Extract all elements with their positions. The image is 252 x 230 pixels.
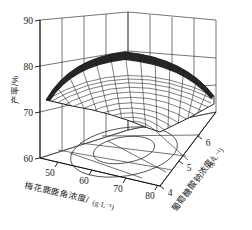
z-axis-title: 产率/% [10, 76, 20, 104]
floor-gridline-y1 [70, 153, 142, 178]
floor-gridline-y3 [150, 126, 188, 160]
contour-ring-inner [91, 132, 156, 167]
x-tick-label-70: 70 [113, 184, 123, 194]
x-axis-unit: (g·L⁻¹) [92, 198, 116, 212]
floor-gridline-y2 [108, 141, 166, 172]
z-tick-mark-60 [35, 158, 40, 159]
response-surface-mesh [46, 52, 214, 133]
z-tick-label-90: 90 [24, 16, 34, 26]
x-tick-mark-50 [55, 162, 58, 167]
y-tick-mark-4 [160, 186, 164, 189]
z-tick-mark-90 [35, 20, 40, 21]
x-tick-mark-70 [123, 178, 126, 183]
x-tick-mark-60 [89, 170, 92, 175]
x-tick-mark-80 [155, 185, 158, 190]
z-tick-mark-70 [35, 112, 40, 113]
z-tick-label-60: 60 [24, 154, 34, 164]
z-tick-mark-80 [35, 66, 40, 67]
z-axis-ticks [35, 20, 40, 159]
z-tick-label-80: 80 [24, 62, 34, 72]
x-tick-label-50: 50 [45, 168, 55, 178]
y-tick-label-6: 6 [206, 138, 211, 148]
floor-gridline-x1 [58, 150, 172, 170]
x-tick-label-80: 80 [145, 191, 155, 201]
y-tick-label-5: 5 [187, 163, 192, 173]
y-tick-mark-5 [179, 161, 183, 164]
y-tick-mark-6 [198, 136, 202, 139]
z-tick-label-70: 70 [24, 108, 34, 118]
x-tick-label-60: 60 [79, 176, 89, 186]
y-tick-label-4: 4 [168, 188, 173, 198]
surface-chart-svg: 90 80 70 60 50 60 70 80 4 5 6 产率/% 梅花鹿鹿角… [0, 0, 252, 230]
response-surface-plot: 90 80 70 60 50 60 70 80 4 5 6 产率/% 梅花鹿鹿角… [0, 0, 252, 230]
x-axis-ticks [55, 162, 158, 190]
floor-gridline-x3 [102, 135, 200, 136]
